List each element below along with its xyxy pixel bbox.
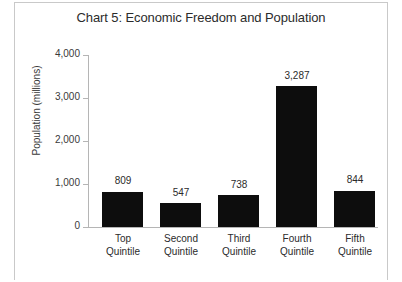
x-category-label-fifth-quintile: Fifth Quintile: [326, 232, 384, 258]
x-category-label-fourth-quintile: Fourth Quintile: [268, 232, 326, 258]
bar-top-quintile[interactable]: [102, 192, 143, 227]
chart-page: Chart 5: Economic Freedom and Population…: [0, 0, 402, 282]
x-category-line: Quintile: [152, 245, 210, 258]
x-category-line: Top: [94, 232, 152, 245]
x-category-line: Second: [152, 232, 210, 245]
bar-value-label: 547: [152, 187, 210, 198]
x-category-line: Fourth: [268, 232, 326, 245]
bar-value-label: 809: [94, 175, 152, 186]
bar-value-label: 844: [326, 174, 384, 185]
x-category-line: Quintile: [210, 245, 268, 258]
x-category-line: Third: [210, 232, 268, 245]
bar-value-label: 738: [210, 179, 268, 190]
x-category-label-third-quintile: Third Quintile: [210, 232, 268, 258]
bar-third-quintile[interactable]: [218, 195, 259, 227]
bar-value-label: 3,287: [268, 70, 326, 81]
x-category-line: Quintile: [268, 245, 326, 258]
x-category-line: Quintile: [94, 245, 152, 258]
bar-fifth-quintile[interactable]: [334, 191, 375, 227]
bar-second-quintile[interactable]: [160, 203, 201, 227]
bar-fourth-quintile[interactable]: [276, 86, 317, 227]
x-category-line: Quintile: [326, 245, 384, 258]
x-category-label-second-quintile: Second Quintile: [152, 232, 210, 258]
x-category-line: Fifth: [326, 232, 384, 245]
x-category-label-top-quintile: Top Quintile: [94, 232, 152, 258]
